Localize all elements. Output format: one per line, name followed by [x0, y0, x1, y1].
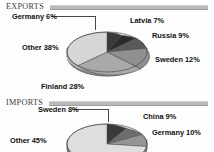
pie-exports-svg — [63, 22, 151, 88]
chart-imports: Sweden 8% China 9% Germany 10% Other 45% — [0, 106, 214, 152]
pie-label-sweden-exports: Sweden 12% — [155, 55, 200, 64]
header-rule-exports — [50, 5, 208, 10]
pie-label-latvia-exports: Latvia 7% — [130, 16, 164, 25]
leader-line-sweden-vertical — [108, 109, 109, 122]
pie-charts-figure: EXPORTS — [0, 0, 214, 152]
pie-label-china-imports: China 9% — [143, 112, 176, 121]
leader-line-germany-vertical — [95, 16, 96, 30]
pie-imports-svg — [63, 114, 151, 152]
pie-exports — [63, 22, 151, 88]
pie-label-russia-exports: Russia 9% — [152, 31, 189, 40]
leader-line-germany-horizontal — [51, 16, 95, 17]
pie-label-finland-exports: Finland 28% — [41, 82, 84, 91]
pie-label-sweden-imports: Sweden 8% — [38, 105, 79, 114]
pie-label-germany-imports: Germany 10% — [152, 128, 201, 137]
pie-label-other-imports: Other 45% — [10, 136, 47, 145]
chart-exports: Germany 6% Latvia 7% Russia 9% Sweden 12… — [0, 10, 214, 96]
pie-imports — [63, 114, 151, 152]
pie-label-germany-exports: Germany 6% — [12, 12, 57, 21]
pie-label-other-exports: Other 38% — [22, 43, 59, 52]
